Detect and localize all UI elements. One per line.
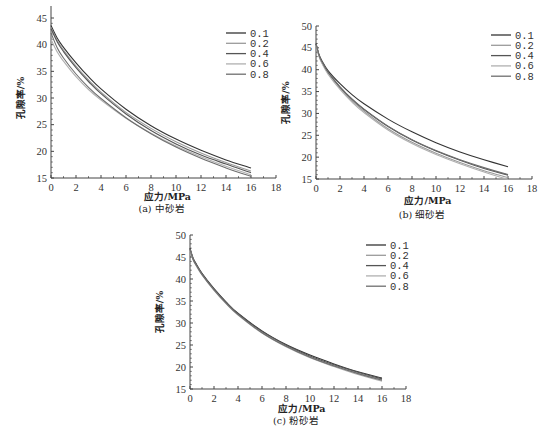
y-tick-label: 20 bbox=[176, 362, 187, 373]
x-tick-label: 18 bbox=[527, 183, 538, 194]
x-axis-title: 应力/MPa bbox=[404, 195, 451, 206]
x-tick-label: 2 bbox=[211, 393, 216, 404]
legend-label: 0.8 bbox=[390, 281, 409, 293]
x-tick-label: 2 bbox=[337, 183, 342, 194]
y-tick-label: 30 bbox=[37, 93, 48, 104]
series-line-0.8 bbox=[51, 33, 251, 177]
series-line-0.4 bbox=[190, 249, 382, 379]
x-tick-label: 14 bbox=[221, 182, 232, 193]
x-axis-title: 应力/MPa bbox=[144, 191, 191, 202]
series-line-0.2 bbox=[316, 44, 508, 177]
figure-svg: 024681012141618152025303540450.10.20.40.… bbox=[0, 0, 550, 447]
chart-a: 024681012141618152025303540450.10.20.40.… bbox=[15, 6, 281, 214]
y-tick-label: 40 bbox=[176, 274, 187, 285]
x-tick-label: 4 bbox=[235, 393, 241, 404]
y-tick-label: 15 bbox=[37, 173, 48, 184]
legend: 0.10.20.40.60.8 bbox=[491, 30, 534, 83]
x-tick-label: 12 bbox=[196, 182, 207, 193]
series-line-0.1 bbox=[190, 248, 382, 378]
series-line-0.6 bbox=[190, 250, 382, 381]
x-tick-label: 10 bbox=[431, 183, 442, 194]
series-line-0.1 bbox=[316, 44, 508, 167]
y-tick-label: 45 bbox=[176, 252, 187, 263]
x-tick-label: 0 bbox=[313, 183, 318, 194]
series-line-0.2 bbox=[190, 249, 382, 380]
x-axis-title: 应力/MPa bbox=[278, 403, 325, 414]
y-tick-label: 35 bbox=[37, 66, 48, 77]
y-tick-label: 15 bbox=[302, 174, 313, 185]
chart-caption: (a) 中砂岩 bbox=[138, 203, 184, 214]
series-line-0.6 bbox=[316, 45, 508, 180]
x-tick-label: 0 bbox=[187, 393, 192, 404]
chart-c: 02468101214161815202530354045500.10.20.4… bbox=[154, 230, 411, 427]
x-tick-label: 2 bbox=[73, 182, 78, 193]
x-tick-label: 6 bbox=[385, 183, 390, 194]
series-line-0.1 bbox=[51, 26, 251, 168]
figure-container: 024681012141618152025303540450.10.20.40.… bbox=[0, 0, 550, 447]
y-tick-label: 45 bbox=[37, 13, 48, 24]
y-tick-label: 30 bbox=[302, 108, 313, 119]
chart-b: 02468101214161815202530354045500.10.20.4… bbox=[280, 21, 537, 221]
x-tick-label: 4 bbox=[98, 182, 104, 193]
legend-label: 0.8 bbox=[250, 69, 269, 81]
x-tick-label: 14 bbox=[353, 393, 364, 404]
x-tick-label: 8 bbox=[409, 183, 414, 194]
y-tick-label: 25 bbox=[37, 119, 48, 130]
x-tick-label: 6 bbox=[123, 182, 128, 193]
y-tick-label: 35 bbox=[302, 86, 313, 97]
x-tick-label: 6 bbox=[259, 393, 264, 404]
y-tick-label: 45 bbox=[302, 42, 313, 53]
legend-label: 0.8 bbox=[515, 71, 534, 83]
y-tick-label: 35 bbox=[176, 296, 187, 307]
legend: 0.10.20.40.60.8 bbox=[226, 28, 269, 81]
chart-caption: (c) 粉砂岩 bbox=[273, 415, 319, 426]
y-axis-title: 孔隙率/% bbox=[280, 81, 291, 124]
x-tick-label: 18 bbox=[271, 182, 282, 193]
x-tick-label: 4 bbox=[361, 183, 367, 194]
series-line-0.8 bbox=[190, 250, 382, 381]
y-tick-label: 50 bbox=[302, 21, 313, 32]
legend: 0.10.20.40.60.8 bbox=[366, 240, 409, 293]
series-line-0.6 bbox=[51, 39, 251, 175]
x-tick-label: 16 bbox=[246, 182, 257, 193]
chart-caption: (b) 细砂岩 bbox=[399, 209, 446, 220]
y-tick-label: 40 bbox=[302, 64, 313, 75]
x-tick-label: 12 bbox=[455, 183, 466, 194]
y-tick-label: 25 bbox=[176, 340, 187, 351]
y-tick-label: 30 bbox=[176, 318, 187, 329]
series-line-0.8 bbox=[316, 44, 508, 175]
y-tick-label: 20 bbox=[302, 152, 313, 163]
series-line-0.4 bbox=[51, 29, 251, 173]
x-tick-label: 14 bbox=[479, 183, 490, 194]
y-tick-label: 50 bbox=[176, 230, 187, 241]
y-axis-title: 孔隙率/% bbox=[15, 77, 26, 120]
x-tick-label: 16 bbox=[503, 183, 514, 194]
x-tick-label: 18 bbox=[401, 393, 412, 404]
x-tick-label: 0 bbox=[48, 182, 53, 193]
y-tick-label: 15 bbox=[176, 384, 187, 395]
series-line-0.4 bbox=[316, 44, 508, 175]
y-axis-title: 孔隙率/% bbox=[154, 291, 165, 334]
x-tick-label: 12 bbox=[329, 393, 340, 404]
y-tick-label: 25 bbox=[302, 130, 313, 141]
x-tick-label: 16 bbox=[377, 393, 388, 404]
series-line-0.2 bbox=[51, 28, 251, 172]
y-tick-label: 20 bbox=[37, 146, 48, 157]
y-tick-label: 40 bbox=[37, 39, 48, 50]
